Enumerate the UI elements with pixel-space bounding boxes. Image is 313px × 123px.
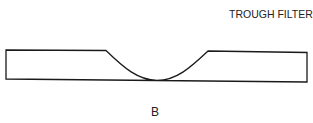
trough-filter-outline (6, 50, 307, 82)
figure-label: B (151, 105, 159, 119)
